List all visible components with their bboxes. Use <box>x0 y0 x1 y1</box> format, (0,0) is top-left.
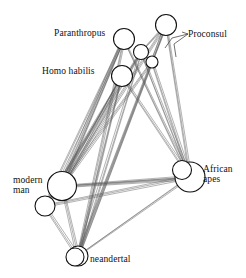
network-graph <box>0 0 246 278</box>
edge-unlabeled_b-to-modern_man <box>63 62 153 186</box>
node-paranthropus[interactable] <box>114 29 135 50</box>
edge-modern_man-to-african_apes <box>62 177 190 186</box>
edge-modern_man-to-african_apes <box>62 179 190 187</box>
figure-canvas: Paranthropus Proconsul Homo habilis mode… <box>0 0 246 278</box>
node-modern_man[interactable] <box>48 172 77 201</box>
edge-unlabeled_a-to-neandertal <box>80 52 142 256</box>
label-neandertal: neandertal <box>90 255 131 265</box>
node-african_apes_b[interactable] <box>173 161 192 180</box>
label-homo-habilis: Homo habilis <box>42 67 95 77</box>
edge-unlabeled_b-to-african_apes <box>153 62 192 177</box>
node-proconsul[interactable] <box>156 15 177 36</box>
node-homo_habilis[interactable] <box>112 66 133 87</box>
label-african-apes-line2: apes <box>203 175 220 185</box>
edge-homo_habilis-to-modern_man <box>63 76 123 186</box>
node-modern_man_sub[interactable] <box>35 196 55 216</box>
label-modern-man-line2: man <box>13 186 30 196</box>
node-unlabeled_a[interactable] <box>134 45 149 60</box>
edge-proconsul-to-african_apes <box>167 25 192 177</box>
node-unlabeled_b[interactable] <box>146 56 158 68</box>
label-paranthropus: Paranthropus <box>54 29 105 39</box>
edge-homo_habilis-to-neandertal <box>77 76 122 256</box>
edge-proconsul-to-african_apes <box>166 25 189 177</box>
edge-layer <box>43 24 191 257</box>
node-neandertal_b[interactable] <box>66 248 84 266</box>
proconsul-leader-line-2 <box>174 34 188 57</box>
label-proconsul: Proconsul <box>188 30 227 40</box>
edge-unlabeled_b-to-african_apes <box>152 62 190 177</box>
